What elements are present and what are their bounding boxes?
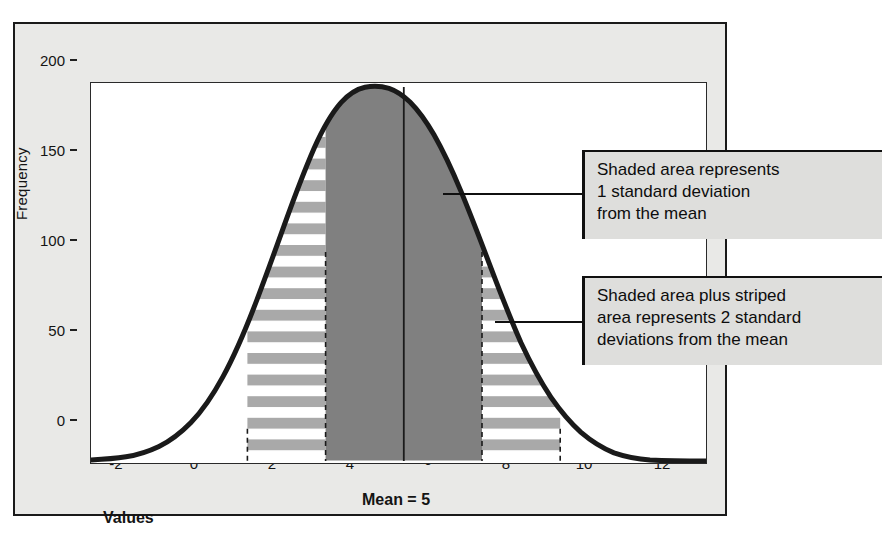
y-tick-mark-0 [70,419,77,421]
x-axis-title: Values [103,509,154,527]
callout-one-sd-line-2: 1 standard deviation [597,181,872,203]
figure-frame: 200 150 100 50 0 Frequency -2 0 2 4 6 8 … [13,22,727,516]
region-one-sd [91,86,706,461]
callout-one-sd: Shaded area represents 1 standard deviat… [582,150,882,239]
callout-two-sd-line-2: area represents 2 standard [597,307,872,329]
plot-area [90,82,707,464]
callout-two-sd: Shaded area plus striped area represents… [582,276,882,365]
callout-one-sd-line-3: from the mean [597,203,872,225]
callout-one-sd-line-1: Shaded area represents [597,159,872,181]
y-tick-mark-50 [70,329,77,331]
callout-two-sd-line-3: deviations from the mean [597,329,872,351]
y-tick-label-200: 200 [25,53,65,68]
y-tick-label-100: 100 [25,233,65,248]
callout-two-sd-line-1: Shaded area plus striped [597,285,872,307]
callout-leader-line-two-sd [495,321,583,323]
y-tick-label-50: 50 [25,323,65,338]
y-tick-label-0: 0 [25,413,65,428]
distribution-plot [91,83,706,463]
callout-leader-line-one-sd [443,193,583,195]
y-axis-title: Frequency [13,147,30,220]
y-tick-mark-100 [70,239,77,241]
y-tick-mark-150 [70,149,77,151]
mean-annotation: Mean = 5 [362,491,430,509]
y-tick-mark-200 [70,59,77,61]
y-tick-label-150: 150 [25,143,65,158]
